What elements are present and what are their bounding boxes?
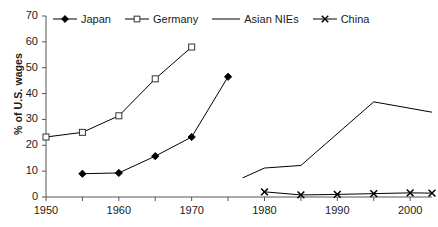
y-tick-label: 20 — [8, 138, 38, 150]
chart-legend: JapanGermanyAsian NIEsChina — [52, 13, 382, 25]
legend-key-open-square-icon — [124, 13, 150, 25]
data-series — [43, 44, 435, 198]
marker-diamond — [224, 73, 231, 80]
legend-label: Germany — [153, 13, 198, 25]
x-tick-label: 2000 — [385, 204, 435, 216]
marker-diamond — [188, 133, 195, 140]
marker-diamond — [79, 170, 86, 177]
series-asian-nies — [243, 102, 432, 178]
x-tick-label: 1950 — [21, 204, 71, 216]
x-tick-label: 1990 — [312, 204, 362, 216]
y-tick-label: 60 — [8, 35, 38, 47]
marker-square — [189, 44, 195, 50]
y-tick-label: 50 — [8, 61, 38, 73]
marker-square — [134, 16, 140, 22]
plot-area — [0, 0, 438, 227]
legend-item-germany[interactable]: Germany — [124, 13, 198, 25]
legend-label: China — [341, 13, 370, 25]
x-tick-label: 1980 — [239, 204, 289, 216]
marker-diamond — [115, 169, 122, 176]
y-tick-label: 30 — [8, 112, 38, 124]
legend-item-japan[interactable]: Japan — [52, 13, 111, 25]
marker-diamond — [62, 16, 69, 23]
x-tick-label: 1960 — [94, 204, 144, 216]
y-tick-label: 0 — [8, 190, 38, 202]
series-line — [243, 102, 432, 178]
legend-item-china[interactable]: China — [312, 13, 370, 25]
legend-label: Japan — [81, 13, 111, 25]
marker-square — [79, 129, 85, 135]
series-germany — [43, 44, 195, 140]
legend-key-x-cross-icon — [312, 13, 338, 25]
series-line — [46, 47, 192, 137]
series-japan — [79, 73, 232, 177]
y-tick-label: 70 — [8, 9, 38, 21]
x-tick-label: 1970 — [167, 204, 217, 216]
chart-container: % of U.S. wages 010203040506070 19501960… — [0, 0, 438, 227]
y-tick-label: 10 — [8, 164, 38, 176]
axis-lines — [46, 16, 432, 197]
legend-label: Asian NIEs — [244, 13, 298, 25]
marker-diamond — [152, 153, 159, 160]
legend-key-filled-diamond-icon — [52, 13, 78, 25]
legend-key-plain-line-icon — [211, 13, 241, 25]
marker-square — [152, 76, 158, 82]
marker-square — [43, 134, 49, 140]
y-tick-label: 40 — [8, 87, 38, 99]
legend-item-asian-nies[interactable]: Asian NIEs — [211, 13, 298, 25]
series-line — [264, 192, 432, 195]
marker-square — [116, 113, 122, 119]
